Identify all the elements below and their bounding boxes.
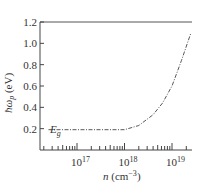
x-tick-label: 1017: [71, 155, 90, 168]
y-axis-label: ħωp (eV): [2, 73, 16, 114]
eg-annotation: Eg: [49, 123, 61, 138]
y-tick-label: 1.2: [23, 16, 37, 28]
y-axis-ticks: 0.20.40.60.81.01.2: [23, 16, 44, 135]
y-tick-label: 1.0: [23, 37, 37, 49]
x-tick-label: 1018: [119, 155, 138, 168]
y-tick-label: 0.2: [23, 123, 37, 135]
y-tick-label: 0.6: [23, 80, 37, 92]
x-axis-label: n (cm−3): [103, 169, 141, 183]
axes: [40, 22, 192, 150]
plasma-energy-chart: 0.20.40.60.81.01.2 101710181019 Eg n (cm…: [0, 0, 203, 185]
x-tick-label: 1019: [166, 155, 185, 168]
x-axis-ticks: 101710181019: [44, 143, 187, 168]
y-tick-label: 0.4: [23, 101, 37, 113]
data-curve: [49, 33, 192, 130]
y-tick-label: 0.8: [23, 59, 37, 71]
